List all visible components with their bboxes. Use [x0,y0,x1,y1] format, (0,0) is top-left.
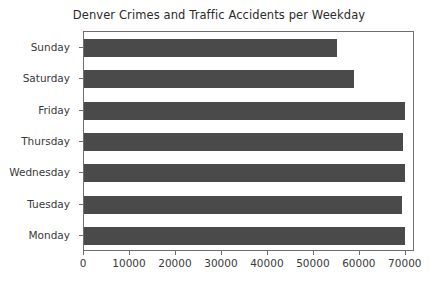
y-axis-labels: SundaySaturdayFridayThursdayWednesdayTue… [0,31,78,251]
x-axis-tick-label: 0 [80,257,87,269]
y-axis-tick-label: Thursday [21,134,70,148]
x-axis-tick-mark [359,251,360,255]
bar [84,39,337,57]
bar [84,164,405,182]
x-axis-tick-label: 40000 [250,257,283,269]
y-axis-tick-label: Sunday [31,40,70,54]
x-axis-tick-label: 60000 [342,257,375,269]
x-axis-tick-mark [267,251,268,255]
x-axis-tick-label: 10000 [112,257,145,269]
y-axis-tick-label: Monday [29,228,70,242]
plot-area [83,31,414,251]
x-axis-tick-label: 20000 [158,257,191,269]
x-axis-tick-mark [405,251,406,255]
x-axis-tick-mark [313,251,314,255]
bar [84,70,354,88]
x-axis-labels: 010000200003000040000500006000070000 [0,251,438,281]
chart-figure: Denver Crimes and Traffic Accidents per … [0,0,438,287]
x-axis-tick-label: 70000 [388,257,421,269]
x-axis-tick-mark [129,251,130,255]
x-axis-tick-label: 30000 [204,257,237,269]
bars-layer [84,32,413,250]
bar [84,102,405,120]
bar [84,196,402,214]
x-axis-tick-mark [221,251,222,255]
y-axis-tick-label: Saturday [23,71,70,85]
x-axis-tick-mark [175,251,176,255]
y-axis-tick-label: Friday [38,103,70,117]
bar [84,227,405,245]
x-axis-tick-mark [83,251,84,255]
y-axis-tick-label: Tuesday [27,197,70,211]
chart-title: Denver Crimes and Traffic Accidents per … [0,8,438,22]
bar [84,133,403,151]
y-axis-tick-label: Wednesday [9,165,70,179]
x-axis-tick-label: 50000 [296,257,329,269]
